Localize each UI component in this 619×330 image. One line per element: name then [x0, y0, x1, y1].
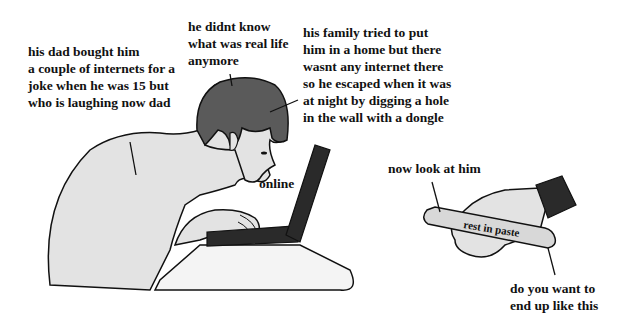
caption-look: now look at him: [388, 160, 481, 177]
man-eye: [261, 152, 267, 155]
caption-warning: do you want to end up like this: [510, 280, 598, 314]
table: [155, 245, 353, 290]
caption-family: his family tried to put him in a home bu…: [303, 24, 451, 126]
caption-real-life: he didnt know what was real life anymore: [188, 18, 289, 69]
caption-online: online: [259, 175, 294, 192]
caption-dad: his dad bought him a couple of internets…: [28, 43, 175, 111]
laptop-screen: [286, 145, 330, 242]
